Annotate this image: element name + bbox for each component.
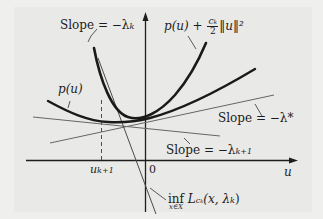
origin-label: 0 bbox=[149, 164, 156, 175]
label-augmented-prefix: p(u) + bbox=[164, 19, 206, 33]
diagram-canvas bbox=[0, 0, 323, 219]
lagrangian-symbol: L bbox=[188, 192, 196, 206]
label-slope-lambda-k-text: Slope = −λ bbox=[60, 18, 129, 32]
label-augmented-function: p(u) + ck2‖u‖² bbox=[164, 17, 244, 36]
horizontal-axis-arrowhead-icon bbox=[289, 158, 298, 164]
slope-lambda-k-plus-1-line bbox=[33, 117, 220, 136]
leader-augmented-curve bbox=[188, 36, 196, 49]
label-slope-lambda-k1-text: Slope = −λ bbox=[166, 143, 235, 157]
fraction-denominator: 2 bbox=[207, 27, 218, 36]
lagrangian-args: (x, λ bbox=[203, 192, 230, 206]
fraction-numerator-subscript: k bbox=[214, 18, 218, 25]
label-slope-lambda-k-plus-1: Slope = −λk+1 bbox=[166, 144, 252, 156]
page-background: Slope = −λk p(u) + ck2‖u‖² p(u) Slope = … bbox=[0, 0, 323, 219]
vertical-axis-arrowhead-icon bbox=[143, 12, 149, 21]
augmented-function-curve bbox=[94, 43, 206, 118]
label-inf-lagrangian: inf x∈X Lck(x, λk) bbox=[168, 193, 240, 211]
label-slope-lambda-k: Slope = −λk bbox=[60, 19, 134, 31]
slope-lambda-k-line bbox=[98, 58, 156, 214]
tick-label-u-k-plus-1: uk+1 bbox=[90, 164, 114, 175]
fraction-ck-over-2: ck2 bbox=[207, 17, 218, 36]
inf-subscript: x∈X bbox=[168, 204, 184, 211]
horizontal-axis-label: u bbox=[284, 166, 292, 178]
leader-inf bbox=[150, 188, 166, 200]
inf-operator: inf x∈X bbox=[168, 193, 184, 211]
label-augmented-suffix: ‖u‖² bbox=[219, 19, 244, 33]
leader-p-u bbox=[68, 101, 70, 108]
tick-label-subscript: k+1 bbox=[97, 166, 114, 175]
label-slope-lambda-k-subscript: k bbox=[129, 22, 134, 31]
label-slope-lambda-k1-subscript: k+1 bbox=[235, 147, 252, 156]
label-p-u: p(u) bbox=[58, 83, 83, 95]
lagrangian-close-paren: ) bbox=[235, 192, 240, 206]
label-slope-lambda-star: Slope = −λ* bbox=[218, 112, 293, 124]
